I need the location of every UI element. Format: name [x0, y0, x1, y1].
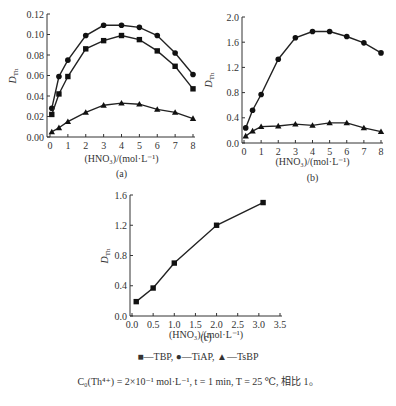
- y-tick-label: 1.6: [115, 190, 128, 201]
- y-tick-label: 0.0: [227, 138, 240, 149]
- x-tick-label: 7: [173, 140, 178, 151]
- x-axis-label: (HNO₃)/(mol·L⁻¹): [275, 156, 349, 168]
- circle-marker-icon: [172, 50, 178, 56]
- square-marker-icon: [172, 260, 177, 265]
- y-tick-label: 0.04: [27, 91, 45, 102]
- chart-figure: 0.000.020.040.060.080.100.12012345678(HN…: [0, 0, 396, 406]
- circle-marker-icon: [119, 22, 125, 28]
- chart-caption: (c): [200, 332, 211, 344]
- circle-marker-icon: [361, 40, 367, 46]
- y-tick-label: 0.4: [227, 112, 240, 123]
- y-tick-label: 0.8: [115, 250, 128, 261]
- x-tick-label: 5: [137, 140, 142, 151]
- circle-marker-icon: [258, 92, 264, 98]
- square-marker-icon: [260, 200, 265, 205]
- x-tick-label: 6: [155, 140, 160, 151]
- y-tick-label: 1.2: [115, 220, 128, 231]
- circle-marker-icon: [83, 33, 89, 39]
- circle-marker-icon: [275, 56, 281, 62]
- x-tick-label: 0.0: [126, 319, 139, 330]
- circle-marker-icon: [344, 34, 350, 40]
- legend-label-tsbp: —TsBP: [227, 351, 259, 362]
- square-marker-icon: [101, 38, 106, 43]
- series-line-tsbp: [52, 103, 193, 132]
- circle-marker-icon: [101, 22, 107, 28]
- square-marker-icon: [137, 37, 142, 42]
- circle-marker-icon: [137, 25, 143, 31]
- square-marker-icon: [134, 299, 139, 304]
- chart-c: 0.00.40.81.21.60.00.51.01.52.02.53.03.5(…: [99, 190, 286, 345]
- square-marker-icon: [190, 86, 195, 91]
- y-tick-label: 0.00: [27, 132, 45, 143]
- x-tick-label: 0: [48, 140, 53, 151]
- circle-marker-icon: [250, 107, 256, 113]
- x-tick-label: 1: [65, 140, 70, 151]
- square-marker-icon: [214, 223, 219, 228]
- x-tick-label: 3: [101, 140, 106, 151]
- circle-marker-icon: [65, 57, 71, 63]
- circle-marker-icon: [310, 29, 316, 35]
- circle-marker-icon: [293, 35, 299, 41]
- x-tick-label: 7: [361, 146, 366, 157]
- legend: ■—TBP, ●—TiAP, ▲—TsBP: [0, 351, 396, 362]
- circle-marker-icon: [190, 72, 196, 78]
- y-tick-label: 0.06: [27, 70, 45, 81]
- x-axis-label: (HNO₃)/(mol·L⁻¹): [84, 153, 158, 165]
- series-line-tiap: [246, 31, 381, 127]
- x-tick-label: 4: [119, 140, 124, 151]
- y-tick-label: 1.2: [227, 62, 240, 73]
- y-tick-label: 0.02: [27, 111, 45, 122]
- conditions-note: C₀(Th⁴⁺) = 2×10⁻¹ mol·L⁻¹, t = 1 min, T …: [0, 373, 396, 388]
- y-axis-label: DTh: [7, 68, 20, 85]
- x-tick-label: 0: [242, 146, 247, 157]
- square-marker-icon: [150, 285, 155, 290]
- square-marker-icon: [56, 91, 61, 96]
- circle-marker-icon: [154, 33, 160, 39]
- triangle-marker-icon: [49, 129, 55, 135]
- y-tick-label: 0.4: [115, 280, 128, 291]
- x-tick-label: 3.0: [253, 319, 266, 330]
- y-tick-label: 0.08: [27, 50, 45, 61]
- x-tick-label: 2: [83, 140, 88, 151]
- legend-triangle-icon: ▲: [217, 351, 227, 362]
- chart-caption: (b): [307, 172, 319, 184]
- x-tick-label: 0.5: [147, 319, 160, 330]
- circle-marker-icon: [378, 50, 384, 56]
- chart-a: 0.000.020.040.060.080.100.12012345678(HN…: [7, 9, 196, 181]
- square-marker-icon: [49, 112, 54, 117]
- chart-b: 0.00.40.81.21.62.0012345678(HNO₃)/(mol·L…: [203, 12, 384, 185]
- square-marker-icon: [119, 33, 124, 38]
- y-tick-label: 2.0: [227, 12, 240, 23]
- x-tick-label: 3.5: [274, 319, 287, 330]
- square-marker-icon: [83, 46, 88, 51]
- square-marker-icon: [155, 48, 160, 53]
- x-tick-label: 8: [379, 146, 384, 157]
- legend-label-tiap: —TiAP: [182, 351, 212, 362]
- circle-marker-icon: [327, 29, 333, 35]
- y-tick-label: 1.6: [227, 37, 240, 48]
- x-tick-label: 8: [191, 140, 196, 151]
- y-tick-label: 0.10: [27, 29, 45, 40]
- y-tick-label: 0.8: [227, 87, 240, 98]
- x-tick-label: 1: [259, 146, 264, 157]
- y-tick-label: 0.12: [27, 9, 45, 20]
- square-marker-icon: [172, 64, 177, 69]
- square-marker-icon: [65, 74, 70, 79]
- circle-marker-icon: [243, 125, 249, 131]
- legend-label-tbp: —TBP: [144, 351, 171, 362]
- y-axis-label: DTh: [203, 72, 216, 89]
- y-axis-label: DTh: [99, 248, 112, 265]
- circle-marker-icon: [56, 74, 62, 80]
- chart-caption: (a): [116, 168, 127, 180]
